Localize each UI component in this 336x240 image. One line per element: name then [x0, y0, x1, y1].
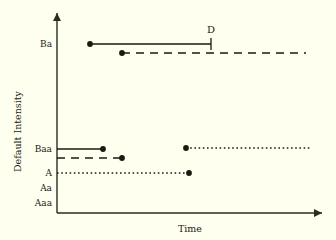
default-intensity-chart: Default Intensity Time Ba Baa A Aa Aaa D	[0, 0, 336, 240]
annotation-d-label: D	[207, 24, 215, 35]
y-tick-label-baa: Baa	[35, 144, 53, 154]
series-solid-baa-end-marker	[100, 146, 106, 152]
series-dashed-ba-start-marker	[119, 50, 125, 56]
y-tick-label-aa: Aa	[39, 183, 52, 193]
chart-canvas: Default Intensity Time Ba Baa A Aa Aaa D	[0, 0, 336, 240]
x-axis-label: Time	[178, 223, 202, 234]
series-dotted-baa-right-start-marker	[183, 145, 189, 151]
series-dotted-a-end-marker	[186, 170, 192, 176]
y-tick-label-ba: Ba	[40, 39, 53, 49]
series-dashed-baa-end-marker	[119, 155, 125, 161]
y-tick-label-a: A	[45, 168, 53, 178]
y-axis-label: Default Intensity	[12, 90, 23, 172]
series-solid-ba-start-marker	[87, 41, 93, 47]
y-tick-label-aaa: Aaa	[34, 198, 53, 208]
